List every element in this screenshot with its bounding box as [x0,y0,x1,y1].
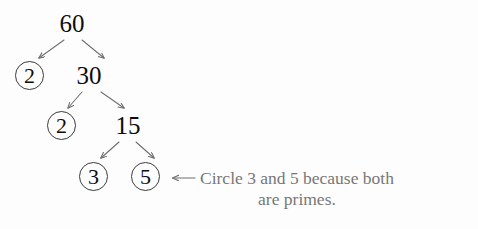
node-2-first: 2 [15,61,44,90]
callout-text: Circle 3 and 5 because both are primes. [200,168,394,210]
factor-tree-diagram: 60 2 30 2 15 3 5 Circle 3 and 5 because … [0,0,478,229]
callout-line-1: Circle 3 and 5 because both [200,168,394,188]
edge-30-to-2 [68,92,82,108]
edge-15-to-5 [136,142,154,158]
callout-line-2: are primes. [200,189,394,210]
node-30-label: 30 [77,63,102,88]
edge-30-to-15 [101,92,124,108]
node-5-label: 5 [140,166,151,188]
node-15: 15 [110,112,146,138]
node-2-second: 2 [47,111,76,140]
node-60-label: 60 [60,11,85,36]
edge-15-to-3 [101,142,119,158]
node-3-label: 3 [88,166,99,188]
node-15-label: 15 [116,113,141,138]
node-30: 30 [70,62,108,88]
node-2-second-label: 2 [56,115,67,137]
node-5: 5 [131,162,160,191]
edge-60-to-2 [39,40,64,58]
node-2-first-label: 2 [24,65,35,87]
node-3: 3 [79,162,108,191]
node-60: 60 [54,10,90,36]
edge-60-to-30 [82,40,104,58]
